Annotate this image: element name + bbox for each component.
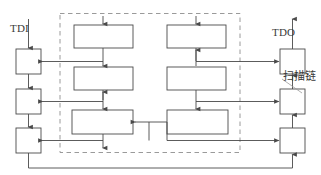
label-tdo: TDO [272, 27, 295, 38]
scan-cell-right-3 [280, 128, 305, 153]
logic-block-left-3 [72, 110, 133, 134]
label-tdi: TDI [10, 23, 29, 34]
scan-cell-left-1 [16, 49, 41, 74]
logic-block-left-1 [74, 25, 133, 48]
logic-block-right-3 [167, 110, 228, 134]
logic-block-left-2 [74, 67, 133, 90]
logic-block-right-1 [167, 25, 226, 48]
scan-cell-left-2 [16, 89, 41, 114]
label-scan-chain: 扫描链 [283, 71, 316, 82]
scan-cell-left-3 [16, 128, 41, 153]
logic-block-right-2 [167, 67, 226, 90]
scan-chain-diagram: TDI TDO 扫描链 [0, 0, 321, 175]
